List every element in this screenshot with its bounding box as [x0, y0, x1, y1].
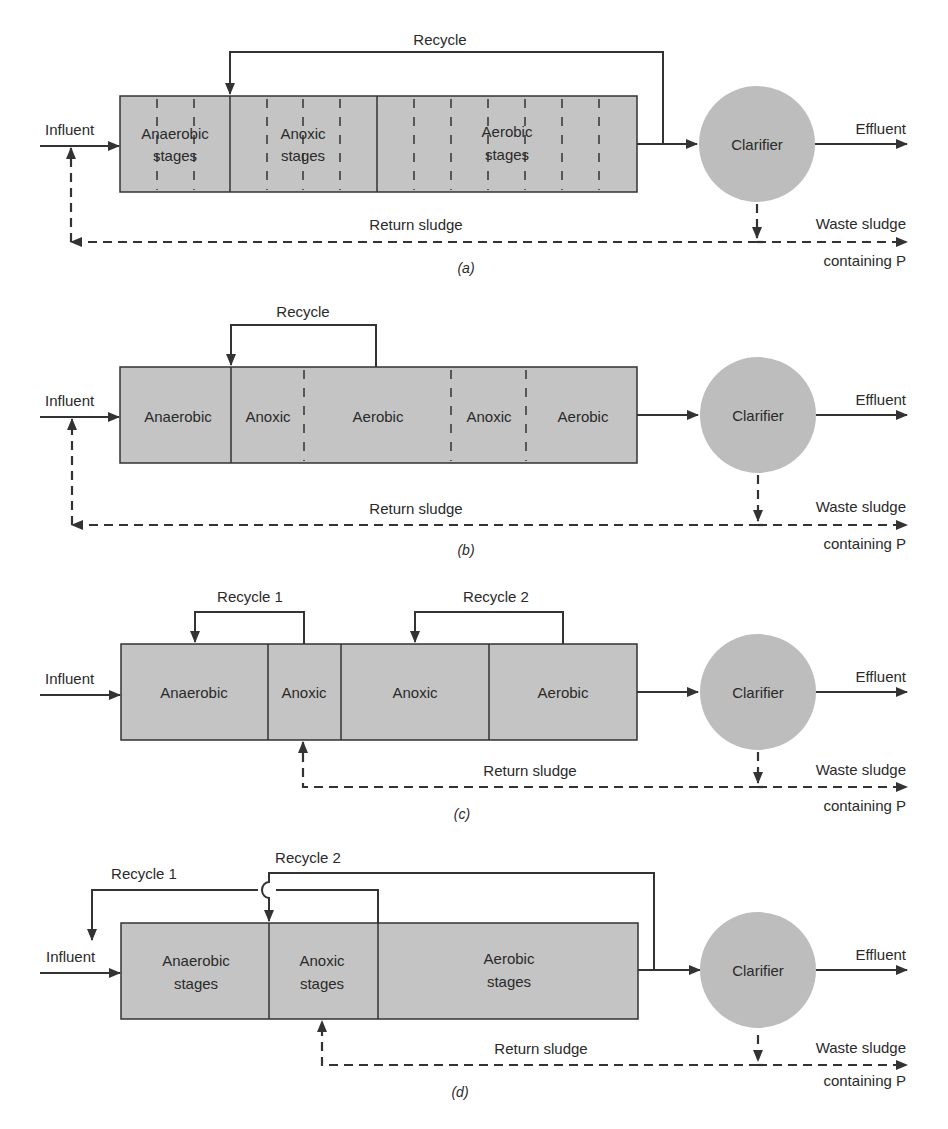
effluent-label: Effluent [855, 668, 906, 685]
zone-label: stages [153, 147, 197, 164]
zone-label: Aerobic [484, 950, 535, 967]
zone-label: stages [300, 975, 344, 992]
recycle-label: Recycle [413, 31, 466, 48]
return-sludge-label: Return sludge [483, 762, 576, 779]
effluent-label: Effluent [855, 120, 906, 137]
return-sludge-label: Return sludge [369, 500, 462, 517]
influent-label: Influent [45, 121, 95, 138]
influent-label: Influent [45, 670, 95, 687]
recycle-1-label: Recycle 1 [217, 588, 283, 605]
reactor-tank [121, 923, 638, 1019]
panel-caption: (a) [457, 260, 474, 276]
zone-label: Aerobic [538, 684, 589, 701]
zone-label: Aerobic [482, 123, 533, 140]
zone-label: Anaerobic [162, 952, 230, 969]
effluent-label: Effluent [855, 391, 906, 408]
zone-label: stages [487, 973, 531, 990]
zone-label: Anaerobic [141, 125, 209, 142]
waste-sludge-label: Waste sludge [816, 1039, 906, 1056]
waste-sludge-label: Waste sludge [816, 761, 906, 778]
recycle-1-label: Recycle 1 [111, 865, 177, 882]
clarifier-label: Clarifier [732, 684, 784, 701]
clarifier-label: Clarifier [732, 962, 784, 979]
influent-label: Influent [45, 392, 95, 409]
waste-sludge-label: Waste sludge [816, 498, 906, 515]
panel-a: Recycle Anaerobic stages Anoxic stages A… [40, 31, 907, 276]
panel-caption: (b) [457, 542, 474, 558]
zone-label: Anoxic [299, 952, 345, 969]
zone-label: Anoxic [281, 684, 327, 701]
waste-sludge-label-2: containing P [823, 252, 906, 269]
process-flow-figure: Recycle Anaerobic stages Anoxic stages A… [0, 0, 948, 1129]
recycle-2-line [415, 612, 563, 644]
return-sludge-label: Return sludge [494, 1040, 587, 1057]
zone-label: Anaerobic [144, 408, 212, 425]
recycle-2-label: Recycle 2 [275, 849, 341, 866]
recycle-1-line [195, 612, 304, 644]
zone-label: stages [281, 147, 325, 164]
zone-label: Anoxic [280, 125, 326, 142]
zone-label: Anoxic [392, 684, 438, 701]
zone-label: Aerobic [353, 408, 404, 425]
clarifier-label: Clarifier [731, 136, 783, 153]
zone-label: Anaerobic [160, 684, 228, 701]
zone-label: Anoxic [466, 408, 512, 425]
zone-label: Anoxic [245, 408, 291, 425]
recycle-line [231, 325, 376, 367]
influent-label: Influent [46, 948, 96, 965]
panel-caption: (c) [454, 806, 470, 822]
reactor-tank [120, 96, 637, 192]
waste-sludge-label-2: containing P [823, 797, 906, 814]
waste-sludge-label-2: containing P [823, 535, 906, 552]
panel-c: Recycle 1 Recycle 2 Anaerobic Anoxic Ano… [40, 588, 907, 822]
recycle-label: Recycle [276, 303, 329, 320]
zone-label: stages [174, 975, 218, 992]
return-sludge-label: Return sludge [369, 216, 462, 233]
effluent-label: Effluent [855, 946, 906, 963]
zone-label: Aerobic [558, 408, 609, 425]
recycle-2-label: Recycle 2 [463, 588, 529, 605]
zone-label: stages [485, 146, 529, 163]
waste-sludge-label-2: containing P [823, 1072, 906, 1089]
panel-b: Recycle Anaerobic Anoxic Aerobic Anoxic … [40, 303, 907, 558]
panel-d: Recycle 1 Recycle 2 Anaerobic stages Ano… [40, 849, 907, 1100]
waste-sludge-label: Waste sludge [816, 215, 906, 232]
clarifier-label: Clarifier [732, 407, 784, 424]
panel-caption: (d) [451, 1084, 468, 1100]
